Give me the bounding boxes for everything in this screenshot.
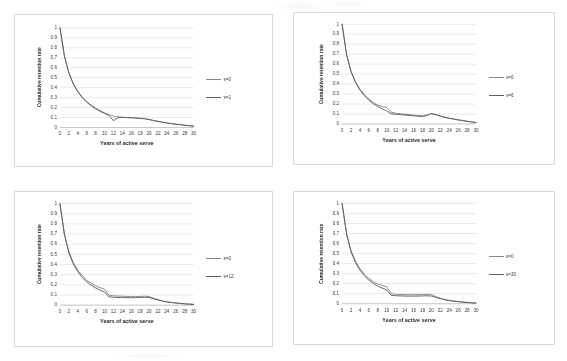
chart-panel-4-border: Cumulative retention rate Years of activ… <box>293 191 555 345</box>
legend-label: s=0 <box>223 256 231 261</box>
legend-line-icon <box>206 97 221 98</box>
chart-panel-4-plot: Cumulative retention rate Years of activ… <box>294 192 554 344</box>
chart-panel-2-plot: Cumulative retention rate Years of activ… <box>294 13 554 164</box>
legend-item[interactable]: s=6 <box>489 91 514 100</box>
legend-line-icon <box>489 256 504 257</box>
chart-panel-3-plot: Cumulative retention rate Years of activ… <box>15 192 272 346</box>
legend-label: s=0 <box>223 77 231 82</box>
legend-line-icon <box>206 276 221 277</box>
chart-panel-3: Cumulative retention rate Years of activ… <box>0 181 283 361</box>
legend-label: s=12 <box>223 274 233 279</box>
legend-item[interactable]: s=12 <box>206 272 233 281</box>
legend-label: s=1 <box>223 95 231 100</box>
chart-panel-3-border: Cumulative retention rate Years of activ… <box>14 191 273 347</box>
legend-line-icon <box>206 79 221 80</box>
chart-panel-1-plot: Cumulative retention rate Years of activ… <box>15 15 272 166</box>
chart-panel-2-border: Cumulative retention rate Years of activ… <box>293 12 555 165</box>
chart-panel-2: Cumulative retention rate Years of activ… <box>283 0 567 181</box>
legend-item[interactable]: s=0 <box>489 252 516 261</box>
chart-panel-1-border: Cumulative retention rate Years of activ… <box>14 14 273 167</box>
legend-item[interactable]: s=0 <box>206 75 231 84</box>
chart-legend: s=0s=1 <box>206 75 231 111</box>
legend-item[interactable]: s=0 <box>206 254 233 263</box>
line-chart-svg <box>15 15 272 166</box>
legend-line-icon <box>489 77 504 78</box>
legend-label: s=0 <box>506 75 514 80</box>
legend-label: s=0 <box>506 254 514 259</box>
chart-legend: s=0s=12 <box>206 254 233 290</box>
chart-legend: s=0s=30 <box>489 252 516 288</box>
chart-grid: Cumulative retention rate Years of activ… <box>0 0 567 361</box>
line-chart-svg <box>294 13 554 164</box>
legend-item[interactable]: s=1 <box>206 93 231 102</box>
legend-line-icon <box>206 258 221 259</box>
legend-line-icon <box>489 274 504 275</box>
chart-panel-4: Cumulative retention rate Years of activ… <box>283 181 567 361</box>
legend-label: s=30 <box>506 272 516 277</box>
legend-item[interactable]: s=30 <box>489 270 516 279</box>
legend-label: s=6 <box>506 93 514 98</box>
legend-line-icon <box>489 95 504 96</box>
chart-panel-1: Cumulative retention rate Years of activ… <box>0 0 283 181</box>
chart-legend: s=0s=6 <box>489 73 514 109</box>
legend-item[interactable]: s=0 <box>489 73 514 82</box>
